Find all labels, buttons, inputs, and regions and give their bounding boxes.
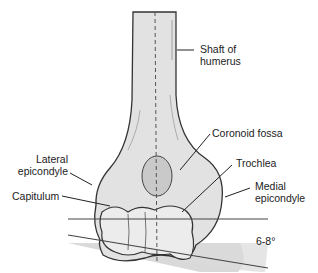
- humerus-diagram: Shaft of humerus Coronoid fossa Lateral …: [0, 0, 318, 273]
- label-coronoid-fossa: Coronoid fossa: [212, 127, 283, 139]
- label-shaft-of-humerus: Shaft of humerus: [200, 43, 241, 67]
- label-lateral-epicondyle: Lateral epicondyle: [16, 153, 68, 177]
- label-trochlea: Trochlea: [236, 157, 276, 169]
- label-capitulum: Capitulum: [12, 190, 59, 202]
- articular-surface: [100, 206, 194, 259]
- label-carrying-angle: 6-8°: [256, 235, 275, 247]
- coronoid-fossa: [142, 156, 172, 196]
- label-medial-epicondyle: Medial epicondyle: [255, 180, 305, 204]
